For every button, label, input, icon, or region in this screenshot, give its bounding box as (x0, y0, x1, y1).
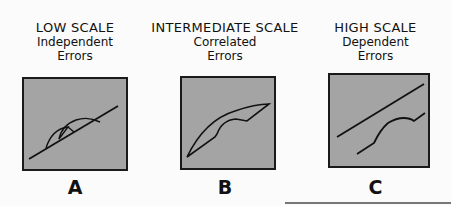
panel-label: B (150, 176, 300, 198)
panel-subtitle: Dependent (300, 35, 451, 49)
diagram-box-c (328, 73, 430, 168)
diagram-box-b (180, 76, 276, 170)
panel-label: A (0, 176, 150, 198)
panel-subtitle: Correlated (150, 35, 300, 49)
panel-high-scale: HIGH SCALE Dependent Errors C (300, 0, 451, 206)
panel-label: C (300, 176, 451, 198)
panel-subtitle: Errors (300, 49, 451, 63)
panel-subtitle: Independent (0, 35, 150, 49)
panel-subtitle: Errors (0, 49, 150, 63)
panel-intermediate-scale: INTERMEDIATE SCALE Correlated Errors B (150, 0, 300, 206)
panel-low-scale: LOW SCALE Independent Errors A (0, 0, 150, 206)
panel-title: HIGH SCALE (300, 20, 451, 35)
panel-subtitle: Errors (150, 49, 300, 63)
panel-title: LOW SCALE (0, 20, 150, 35)
divider-line (285, 202, 451, 204)
diagram-box-a (22, 77, 128, 171)
panel-title: INTERMEDIATE SCALE (150, 20, 300, 35)
